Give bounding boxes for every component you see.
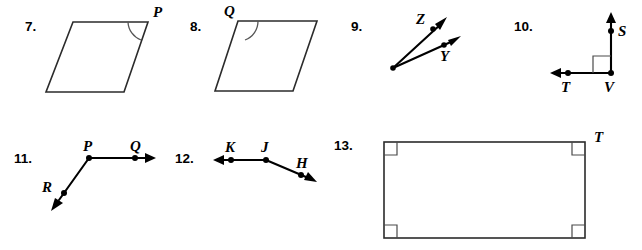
- arrowhead-K: [213, 155, 224, 165]
- right-angle-square-at-V: [593, 56, 611, 73]
- problem-11-figure: 11. P Q R: [14, 138, 156, 211]
- vertex-label-V: V: [604, 79, 616, 95]
- angle-arc-at-Q: [245, 21, 258, 40]
- problem-11-number: 11.: [14, 151, 32, 166]
- vertex-dot-V: [608, 70, 614, 76]
- point-dot-R: [61, 190, 67, 196]
- vertex-label-Y: Y: [440, 48, 451, 64]
- worksheet-page: 7. P 8. Q 9. Z Y: [0, 0, 642, 250]
- problem-13-number: 13.: [334, 138, 353, 153]
- point-dot-Z: [430, 26, 436, 32]
- vertex-label-Z: Z: [415, 11, 425, 27]
- arrowhead-Y: [448, 36, 461, 46]
- arrowhead-S: [606, 12, 616, 23]
- vertex-label-P: P: [153, 4, 163, 20]
- problem-10-figure: 10. S T V: [514, 12, 626, 95]
- point-dot-Y: [441, 42, 447, 48]
- arrowhead-Q: [145, 153, 156, 163]
- problem-12-number: 12.: [175, 151, 194, 166]
- vertex-label-T: T: [561, 79, 571, 95]
- right-angle-square-bottom-left: [384, 225, 397, 238]
- vertex-label-Q: Q: [224, 3, 235, 19]
- problem-10-number: 10.: [514, 19, 533, 34]
- problem-7-figure: 7. P: [25, 4, 163, 92]
- point-dot-K: [228, 157, 234, 163]
- right-angle-square-top-right: [572, 142, 585, 155]
- point-dot-H: [298, 172, 304, 178]
- vertex-dot-P: [86, 155, 92, 161]
- problem-8-figure: 8. Q: [190, 3, 317, 91]
- parallelogram-7: [46, 22, 148, 92]
- point-dot-S: [608, 28, 614, 34]
- vertex-label-Q-11: Q: [130, 138, 141, 154]
- vertex-dot-J: [263, 157, 269, 163]
- problem-12-figure: 12. K J H: [175, 139, 317, 182]
- arrowhead-T: [550, 68, 561, 78]
- vertex-label-J-12: J: [260, 139, 269, 155]
- vertex-label-H-12: H: [295, 155, 309, 171]
- angle-arc-at-P: [128, 22, 141, 40]
- vertex-label-P-11: P: [83, 138, 93, 154]
- problem-13-figure: 13. T: [334, 129, 604, 238]
- vertex-label-R-11: R: [41, 179, 52, 195]
- vertex-dot-9: [390, 65, 396, 71]
- vertex-label-K-12: K: [224, 139, 236, 155]
- vertex-label-T-13: T: [594, 129, 604, 145]
- vertex-label-S: S: [618, 23, 626, 39]
- problem-9-figure: 9. Z Y: [351, 11, 461, 71]
- right-angle-square-bottom-right: [572, 225, 585, 238]
- parallelogram-8: [215, 21, 317, 91]
- rectangle-13: [384, 142, 585, 238]
- problem-9-number: 9.: [351, 19, 362, 34]
- right-angle-square-top-left: [384, 142, 397, 155]
- problem-7-number: 7.: [25, 19, 36, 34]
- problem-8-number: 8.: [190, 19, 201, 34]
- point-dot-T: [565, 70, 571, 76]
- point-dot-Q: [132, 155, 138, 161]
- arrowhead-R: [51, 198, 63, 211]
- arrowhead-H: [304, 172, 317, 182]
